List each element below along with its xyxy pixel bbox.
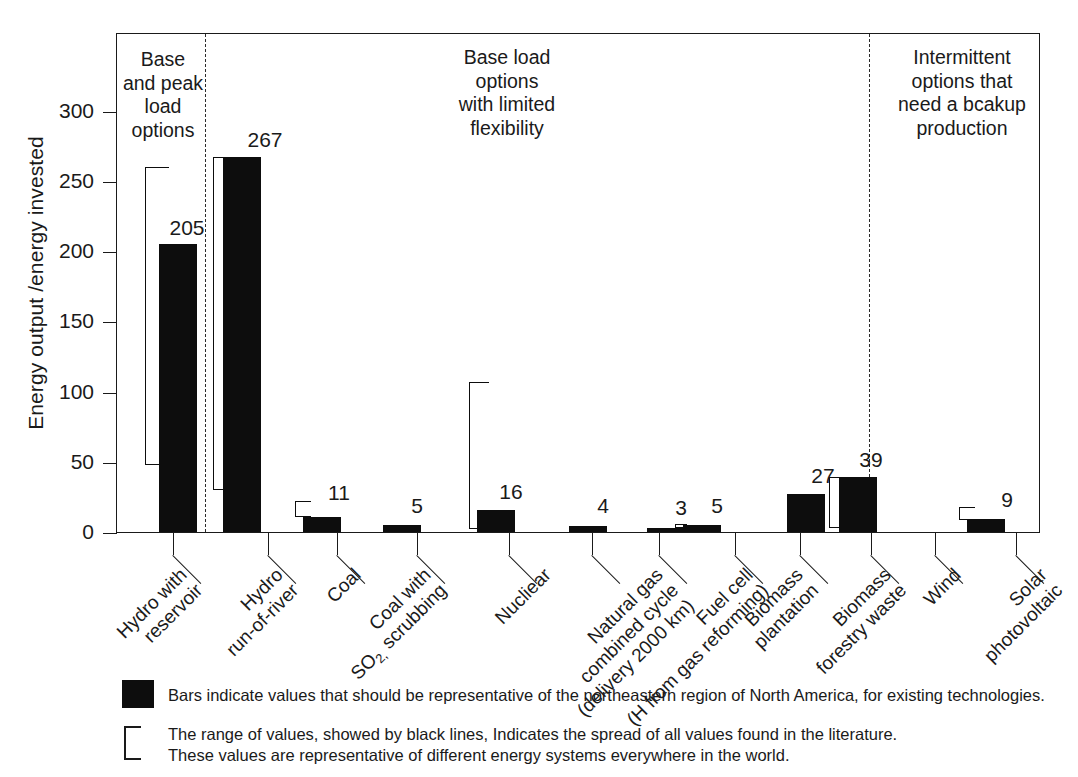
range-bracket-coal [295,501,311,517]
y-tick-mark-150 [103,322,117,323]
bar-hydro-run-of-river[interactable] [223,157,261,532]
x-tick-8 [735,533,736,555]
y-tick-mark-100 [103,393,117,394]
y-axis-title: Energy output /energy invested [24,73,48,493]
legend-range-bracket-icon [124,726,141,760]
bar-value-coal: 11 [317,481,361,505]
legend-bars-note: Bars indicate values that should be repr… [168,685,1048,706]
legend-bar-swatch-icon [122,680,154,708]
x-tick-11 [935,533,936,555]
y-tick-label-200: 200 [14,239,94,263]
y-tick-label-50: 50 [14,450,94,474]
x-tick-1 [173,533,174,555]
y-tick-mark-0 [103,533,117,534]
x-tick-4 [417,533,418,555]
bar-biomass-plantation[interactable] [683,525,721,532]
bar-value-biomass-plantation: 5 [695,494,739,518]
y-tick-mark-250 [103,182,117,183]
bar-value-natural-gas-combined-cycle: 4 [581,494,625,518]
y-tick-label-100: 100 [14,380,94,404]
x-tick-12 [1016,533,1017,555]
bar-coal-with-so2-scrubbing[interactable] [383,525,421,532]
legend-range-note-line-2: These values are representative of diffe… [168,745,1048,766]
x-tick-6 [592,533,593,555]
y-tick-mark-300 [103,112,117,113]
bar-value-coal-with-so2-scrubbing: 5 [395,494,439,518]
bar-coal[interactable] [303,517,341,532]
bar-solar-photovoltaic[interactable] [967,519,1005,532]
y-tick-label-150: 150 [14,309,94,333]
plot-area: Base and peak load options Base load opt… [116,33,1040,533]
x-tick-5 [509,533,510,555]
bar-value-nucliear: 16 [489,480,533,504]
bar-nucliear[interactable] [477,510,515,532]
y-tick-label-250: 250 [14,169,94,193]
bar-biomass-forestry-waste[interactable] [787,494,825,532]
y-tick-label-0: 0 [14,520,94,544]
legend-range-note-line-1: The range of values, showed by black lin… [168,724,1048,745]
x-axis-label-coal-with-so2-scrubbing: Coal with SO2, scrubbing [279,564,453,738]
section-header-base-and-peak-load: Base and peak load options [121,48,205,142]
y-tick-mark-50 [103,463,117,464]
chart-figure: Energy output /energy invested 300 250 2… [0,0,1078,777]
section-header-base-load-limited-flexibility: Base load options with limited flexibili… [417,46,597,140]
bar-fuel-cell[interactable] [647,528,685,532]
bar-value-hydro-with-reservoir: 205 [157,216,217,240]
section-header-intermittent-backup: Intermittent options that need a bcakup … [887,46,1037,140]
x-tick-3 [337,533,338,555]
y-tick-mark-200 [103,252,117,253]
range-bracket-nucliear [469,382,489,529]
bar-value-wind: 39 [849,448,893,472]
x-axis-label-solar-photovoltaic: Solar photovoltaic [895,564,1068,737]
bar-value-hydro-run-of-river: 267 [235,128,295,152]
x-tick-10 [871,533,872,555]
bar-value-solar-photovoltaic: 9 [985,488,1029,512]
x-tick-7 [659,533,660,555]
x-leader-6 [591,555,620,584]
bar-value-biomass-forestry-waste: 27 [801,464,845,488]
bar-hydro-with-reservoir[interactable] [159,244,197,532]
x-tick-9 [800,533,801,555]
section-divider-left [205,34,206,532]
bar-natural-gas-combined-cycle[interactable] [569,526,607,532]
y-tick-label-300: 300 [14,99,94,123]
x-tick-2 [268,533,269,555]
